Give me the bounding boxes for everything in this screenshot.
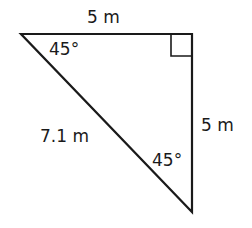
bottom-angle-label: 45° xyxy=(152,152,182,169)
top-side-label: 5 m xyxy=(87,9,120,26)
hypotenuse-label: 7.1 m xyxy=(40,128,89,145)
right-side-label: 5 m xyxy=(201,117,234,134)
triangle-figure xyxy=(0,0,252,228)
top-left-angle-label: 45° xyxy=(49,41,79,58)
triangle xyxy=(21,34,192,212)
right-angle-marker xyxy=(171,34,192,56)
